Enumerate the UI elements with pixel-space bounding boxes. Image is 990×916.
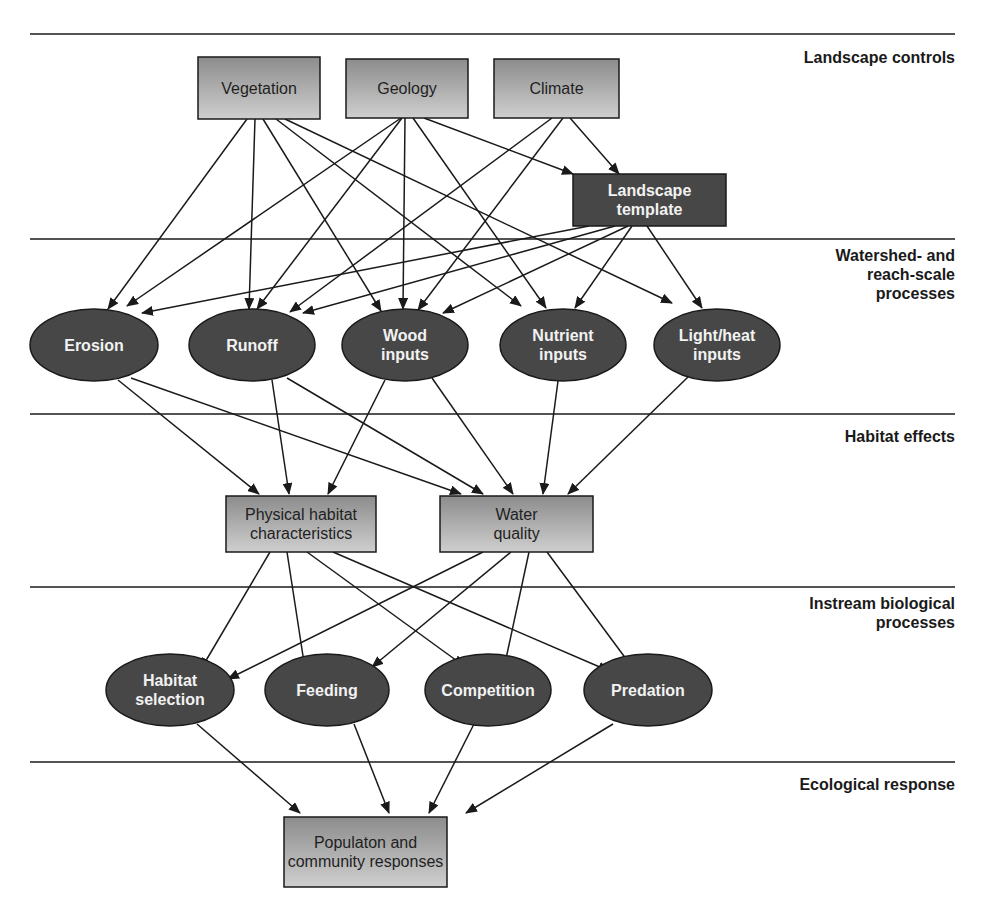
- node-label-line: template: [617, 201, 683, 218]
- node-label-line: Vegetation: [221, 80, 297, 97]
- node-predation: Predation: [584, 654, 712, 726]
- node-feeding: Feeding: [265, 654, 389, 726]
- edge-wood-inputs-to-physical-habitat: [328, 380, 385, 494]
- node-label-line: selection: [135, 691, 204, 708]
- gradient-box-shape: [226, 496, 376, 552]
- edge-physical-habitat-to-habitat-selection: [201, 552, 270, 669]
- node-label-line: Climate: [529, 80, 583, 97]
- level-label-instream: Instream biological processes: [809, 594, 955, 632]
- ellipse-shape: [106, 654, 234, 726]
- level-label-landscape-controls: Landscape controls: [804, 48, 955, 67]
- node-label-line: quality: [493, 525, 539, 542]
- edge-physical-habitat-to-feeding: [287, 552, 305, 669]
- node-label-line: Landscape: [608, 182, 692, 199]
- node-label-line: Light/heat: [679, 327, 756, 344]
- node-label-line: Wood: [383, 327, 427, 344]
- node-label-line: Water: [495, 506, 538, 523]
- edge-runoff-to-physical-habitat: [272, 380, 289, 494]
- node-population: Populaton andcommunity responses: [284, 817, 447, 887]
- node-label-line: Runoff: [226, 337, 278, 354]
- edge-physical-habitat-to-competition: [307, 552, 464, 666]
- edge-vegetation-to-runoff: [249, 119, 255, 309]
- node-label-line: community responses: [288, 853, 444, 870]
- level-label-watershed: Watershed- and reach-scale processes: [836, 246, 955, 303]
- node-label-line: Habitat: [143, 672, 198, 689]
- edge-physical-habitat-to-predation: [333, 552, 609, 671]
- node-climate: Climate: [494, 59, 619, 118]
- edge-runoff-to-water-quality: [287, 378, 483, 494]
- edge-vegetation-to-nutrient-inputs: [276, 119, 521, 306]
- edge-feeding-to-population: [354, 724, 389, 813]
- node-landscape-template: Landscapetemplate: [573, 174, 726, 226]
- edge-light-heat-inputs-to-water-quality: [568, 377, 688, 494]
- edge-nutrient-inputs-to-water-quality: [543, 381, 558, 494]
- node-light-heat-inputs: Light/heatinputs: [654, 309, 780, 381]
- node-erosion: Erosion: [30, 309, 158, 381]
- edge-geology-to-nutrient-inputs: [413, 118, 546, 308]
- node-water-quality: Waterquality: [440, 496, 593, 552]
- node-runoff: Runoff: [189, 309, 315, 381]
- ellipse-shape: [500, 309, 626, 381]
- edge-climate-to-landscape-template: [570, 118, 619, 174]
- node-label-line: Physical habitat: [245, 506, 358, 523]
- edge-climate-to-wood-inputs: [418, 118, 563, 310]
- ellipse-shape: [654, 309, 780, 381]
- edge-competition-to-population: [429, 724, 474, 813]
- node-vegetation: Vegetation: [198, 57, 320, 119]
- edge-wood-inputs-to-water-quality: [432, 378, 513, 494]
- node-label-line: Feeding: [296, 682, 357, 699]
- node-label-line: characteristics: [250, 525, 352, 542]
- edge-habitat-selection-to-population: [197, 724, 300, 813]
- node-label-line: inputs: [381, 346, 429, 363]
- node-label-line: Nutrient: [532, 327, 594, 344]
- node-wood-inputs: Woodinputs: [342, 309, 468, 381]
- node-label-line: Geology: [377, 80, 437, 97]
- node-habitat-selection: Habitatselection: [106, 654, 234, 726]
- node-label-line: Erosion: [64, 337, 124, 354]
- edge-geology-to-wood-inputs: [403, 118, 405, 309]
- edge-vegetation-to-erosion: [108, 119, 247, 309]
- edge-geology-to-runoff: [257, 118, 402, 309]
- edge-vegetation-to-wood-inputs: [263, 119, 381, 311]
- node-geology: Geology: [346, 59, 468, 118]
- edge-water-quality-to-competition: [504, 552, 529, 668]
- node-label-line: Populaton and: [314, 834, 417, 851]
- node-label-line: Predation: [611, 682, 685, 699]
- edge-predation-to-population: [466, 724, 613, 813]
- node-label-line: inputs: [693, 346, 741, 363]
- level-label-habitat-effects: Habitat effects: [845, 427, 955, 446]
- node-competition: Competition: [425, 654, 551, 726]
- node-physical-habitat: Physical habitatcharacteristics: [226, 496, 376, 552]
- gradient-box-shape: [440, 496, 593, 552]
- ellipse-shape: [342, 309, 468, 381]
- edge-erosion-to-physical-habitat: [118, 380, 259, 494]
- gradient-box-shape: [284, 817, 447, 887]
- node-label-line: Competition: [441, 682, 534, 699]
- node-nutrient-inputs: Nutrientinputs: [500, 309, 626, 381]
- level-label-ecological-response: Ecological response: [799, 775, 955, 794]
- node-label-line: inputs: [539, 346, 587, 363]
- edge-erosion-to-water-quality: [131, 378, 461, 494]
